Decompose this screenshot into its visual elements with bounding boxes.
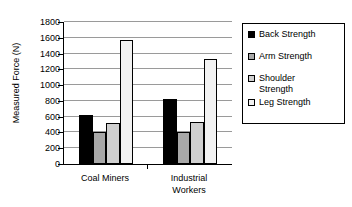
x-axis-ticks [63,164,231,170]
bar-chart: Measured Force (N) 020040060080010001200… [0,0,352,207]
legend-item-back-strength[interactable]: Back Strength [248,29,344,40]
bar-shoulder-strength-group-1 [106,123,120,164]
y-tick-label-1800: 1800 [40,17,60,27]
y-tick-label-1200: 1200 [40,64,60,74]
plot-area [63,22,232,165]
legend-swatch-icon [248,31,255,38]
legend: Back StrengthArm StrengthShoulder Streng… [242,23,345,124]
bar-back-strength-group-2 [163,99,177,164]
legend-item-shoulder-strength[interactable]: Shoulder Strength [248,73,344,95]
legend-label: Leg Strength [259,97,311,108]
bars-layer [64,22,232,164]
bar-arm-strength-group-1 [93,132,107,164]
legend-swatch-icon [248,99,255,106]
bar-arm-strength-group-2 [177,132,191,164]
bar-shoulder-strength-group-2 [190,122,204,164]
y-tick-label-1000: 1000 [40,80,60,90]
legend-swatch-icon [248,53,255,60]
x-axis-category-label-1: Coal Miners [65,173,145,185]
legend-swatch-icon [248,75,255,82]
bar-back-strength-group-1 [79,115,93,164]
legend-label: Shoulder Strength [259,73,295,95]
y-tick-label-1600: 1600 [40,33,60,43]
legend-item-leg-strength[interactable]: Leg Strength [248,97,344,108]
y-axis-tick-labels: 020040060080010001200140016001800 [0,22,60,164]
x-axis-labels: Coal MinersIndustrial Workers [63,173,231,205]
y-tick-label-1400: 1400 [40,49,60,59]
x-tick-mark-1 [147,164,148,169]
legend-label: Arm Strength [259,51,312,62]
legend-item-arm-strength[interactable]: Arm Strength [248,51,344,62]
x-axis-category-label-2: Industrial Workers [149,173,229,196]
bar-leg-strength-group-1 [120,40,134,164]
legend-label: Back Strength [259,29,316,40]
bar-leg-strength-group-2 [204,59,218,164]
